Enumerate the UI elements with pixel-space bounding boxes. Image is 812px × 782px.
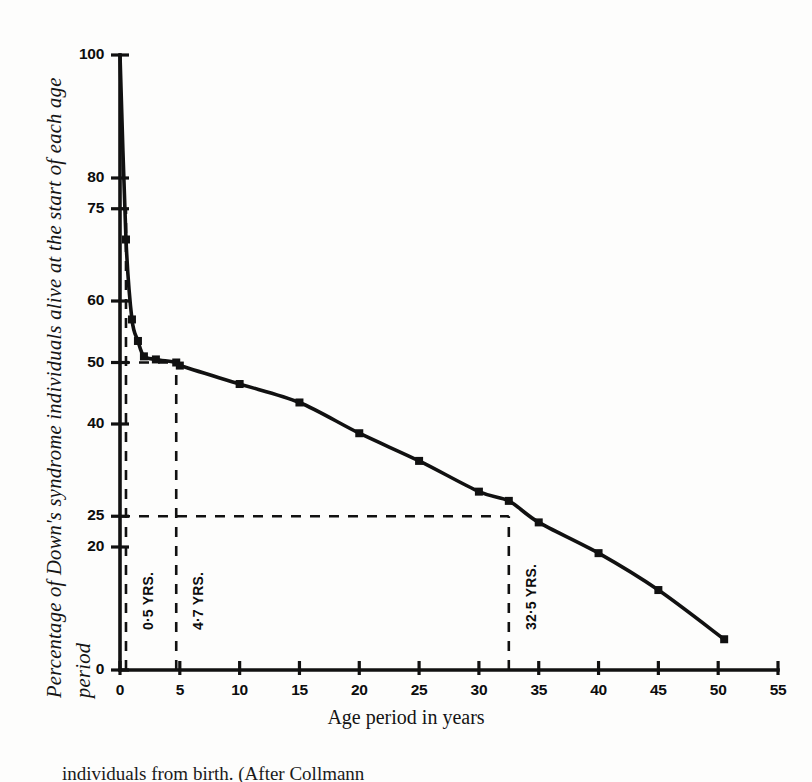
data-point-marker (720, 635, 728, 643)
data-point-marker (122, 236, 130, 244)
median-4-7-years-label: 4·7 YRS. (190, 572, 206, 630)
x-tick-label-45: 45 (638, 681, 678, 699)
x-tick-label-5: 5 (160, 681, 200, 699)
y-tick-label-75: 75 (58, 199, 104, 217)
survival-curve-line (120, 55, 724, 639)
y-tick-label-20: 20 (58, 537, 104, 555)
y-tick-label-0: 0 (58, 660, 104, 678)
x-tick-label-10: 10 (220, 681, 260, 699)
data-point-marker (415, 457, 423, 465)
y-tick-label-100: 100 (58, 45, 104, 63)
x-axis-title: Age period in years (0, 706, 812, 729)
x-tick-label-35: 35 (519, 681, 559, 699)
axes-group (111, 55, 778, 675)
y-tick-label-60: 60 (58, 291, 104, 309)
x-tick-label-0: 0 (100, 681, 140, 699)
y-tick-label-25: 25 (58, 506, 104, 524)
data-point-marker (505, 497, 513, 505)
data-point-marker (595, 549, 603, 557)
data-point-marker (236, 380, 244, 388)
data-point-marker (128, 315, 136, 323)
y-tick-label-50: 50 (58, 353, 104, 371)
data-point-marker (654, 586, 662, 594)
y-tick-label-80: 80 (58, 168, 104, 186)
data-point-marker (140, 352, 148, 360)
survival-curve-plot (0, 0, 812, 782)
data-point-marker (355, 429, 363, 437)
figure-caption: individuals from birth. (After Collmann (62, 763, 810, 782)
median-0-5-years-label: 0·5 YRS. (140, 572, 156, 630)
data-series-group (120, 55, 728, 643)
figure-root: Percentage of Down's syndrome individual… (0, 0, 812, 782)
data-point-marker (134, 337, 142, 345)
x-tick-label-55: 55 (758, 681, 798, 699)
data-point-marker (535, 518, 543, 526)
x-tick-label-20: 20 (339, 681, 379, 699)
x-tick-label-40: 40 (579, 681, 619, 699)
data-point-marker (152, 355, 160, 363)
median-32-5-years-label: 32·5 YRS. (523, 564, 539, 630)
data-point-marker (176, 362, 184, 370)
x-tick-label-30: 30 (459, 681, 499, 699)
x-tick-label-15: 15 (279, 681, 319, 699)
x-tick-label-50: 50 (698, 681, 738, 699)
data-point-marker (295, 398, 303, 406)
guide-lines-group (120, 209, 509, 670)
y-tick-label-40: 40 (58, 414, 104, 432)
x-tick-label-25: 25 (399, 681, 439, 699)
data-point-marker (475, 488, 483, 496)
